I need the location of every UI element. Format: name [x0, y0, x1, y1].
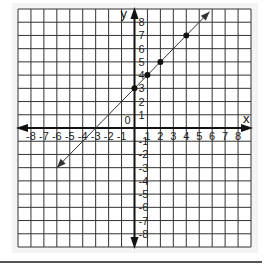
- x-tick-label: 6: [209, 130, 215, 142]
- x-tick-label: -2: [104, 130, 114, 142]
- y-tick-label: 3: [139, 82, 145, 94]
- y-tick-label: -5: [139, 188, 149, 200]
- y-tick-label: 8: [139, 16, 145, 28]
- y-tick-label: -3: [139, 162, 149, 174]
- x-tick-label: -7: [39, 130, 49, 142]
- x-tick-label: -6: [52, 130, 62, 142]
- y-tick-label: -4: [139, 175, 149, 187]
- origin-label: 0: [125, 114, 131, 126]
- x-tick-label: 8: [235, 130, 241, 142]
- x-axis-label: x: [243, 111, 250, 126]
- data-point: [132, 85, 138, 91]
- divider-rule: [0, 261, 262, 263]
- data-point: [183, 32, 189, 38]
- y-tick-label: 6: [139, 43, 145, 55]
- x-tick-label: -8: [26, 130, 36, 142]
- y-tick-label: 5: [139, 56, 145, 68]
- x-tick-label: 7: [222, 130, 228, 142]
- y-tick-label: 7: [139, 29, 145, 41]
- x-tick-label: 3: [170, 130, 176, 142]
- y-axis-label: y: [121, 6, 128, 21]
- y-tick-label: 1: [139, 109, 145, 121]
- y-tick-label: -1: [139, 135, 149, 147]
- x-tick-label: -5: [65, 130, 75, 142]
- x-tick-label: 2: [157, 130, 163, 142]
- x-tick-label: 4: [183, 130, 189, 142]
- x-tick-label: 5: [196, 130, 202, 142]
- data-point: [157, 59, 163, 65]
- y-tick-label: -7: [139, 215, 149, 227]
- y-tick-label: -6: [139, 201, 149, 213]
- y-tick-label: -2: [139, 148, 149, 160]
- y-tick-label: 2: [139, 96, 145, 108]
- x-tick-label: -4: [78, 130, 88, 142]
- y-tick-label: -8: [139, 228, 149, 240]
- coordinate-plane: -8-7-6-5-4-3-2-112345678-8-7-6-5-4-3-2-1…: [0, 0, 267, 269]
- x-tick-label: -1: [117, 130, 127, 142]
- data-point: [144, 72, 150, 78]
